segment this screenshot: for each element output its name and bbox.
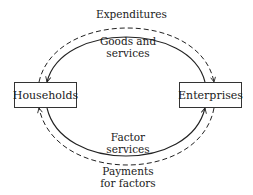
households-label: Households: [13, 89, 78, 102]
enterprises-label: Enterprises: [178, 89, 243, 102]
payments-line1: Payments: [96, 165, 160, 177]
goods-services-label: Goods and services: [96, 35, 160, 59]
expenditures-text: Expenditures: [96, 8, 167, 20]
goods-line1: Goods and: [96, 35, 160, 47]
factor-line1: Factor: [96, 131, 160, 143]
enterprises-node: Enterprises: [179, 82, 242, 108]
goods-line2: services: [96, 47, 160, 59]
factor-services-label: Factor services: [96, 131, 160, 155]
payments-line2: for factors: [96, 177, 160, 189]
payments-label: Payments for factors: [96, 165, 160, 189]
factor-line2: services: [96, 143, 160, 155]
households-node: Households: [14, 82, 77, 108]
expenditures-label: Expenditures: [96, 8, 160, 20]
